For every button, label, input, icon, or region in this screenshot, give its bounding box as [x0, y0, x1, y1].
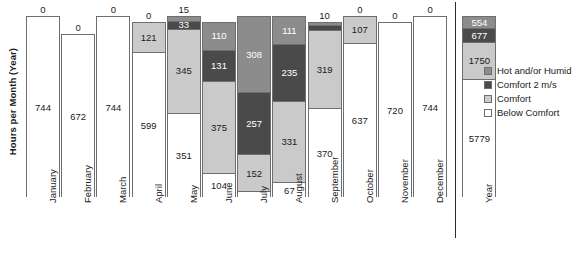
legend-label: Comfort 2 m/s — [497, 79, 557, 90]
bar-top-label: 0 — [26, 4, 60, 15]
x-axis-label-september: September — [329, 123, 340, 203]
segment-value: 33 — [179, 21, 190, 29]
bar-segment-hot: 308 — [238, 17, 270, 92]
bar-top-label: 0 — [96, 4, 130, 15]
x-axis-label-august: August — [293, 123, 304, 203]
bar-top-label: 10 — [308, 10, 342, 21]
segment-value: 744 — [422, 103, 438, 113]
segment-value: 107 — [352, 25, 368, 35]
bar-top-label: 0 — [378, 10, 412, 21]
segment-value: 131 — [211, 61, 227, 71]
segment-value: 677 — [471, 31, 487, 41]
bar-segment-comfort: 345 — [168, 29, 200, 113]
x-axis-label-october: October — [364, 123, 375, 203]
segment-value: 110 — [211, 31, 226, 41]
bar-top-label: 0 — [413, 4, 447, 15]
x-axis-label-january: January — [47, 123, 58, 203]
segment-value: 744 — [105, 103, 121, 113]
bar-segment-hot: 110 — [203, 23, 235, 50]
legend-item-c2ms[interactable]: Comfort 2 m/s — [484, 78, 584, 91]
x-axis-label-june: June — [223, 123, 234, 203]
bar-top-label: 0 — [132, 10, 166, 21]
x-axis-label-july: July — [258, 123, 269, 203]
bar-segment-comfort: 107 — [344, 17, 376, 43]
legend-swatch-hot-icon — [484, 67, 492, 75]
x-axis-label-april: April — [153, 123, 164, 203]
legend-label: Hot and/or Humid — [497, 65, 571, 76]
bar-top-label: 0 — [343, 4, 377, 15]
segment-value: 672 — [70, 112, 86, 122]
legend-item-comfort[interactable]: Comfort — [484, 92, 584, 105]
legend-swatch-comfort-icon — [484, 95, 492, 103]
legend-label: Comfort — [497, 93, 531, 104]
bar-segment-c2ms: 677 — [463, 28, 495, 42]
legend-swatch-below-icon — [484, 109, 492, 117]
bar-segment-c2ms: 33 — [168, 21, 200, 29]
legend-item-hot[interactable]: Hot and/or Humid — [484, 64, 584, 77]
x-axis-label-december: December — [434, 123, 445, 203]
legend-label: Below Comfort — [497, 107, 559, 118]
segment-value: 308 — [246, 50, 262, 60]
legend-item-below[interactable]: Below Comfort — [484, 106, 584, 119]
bar-segment-hot: 554 — [463, 17, 495, 28]
segment-value: 111 — [282, 26, 296, 36]
year-separator — [455, 2, 456, 238]
segment-value: 720 — [387, 106, 403, 116]
segment-value: 744 — [35, 103, 51, 113]
x-axis-label-november: November — [399, 123, 410, 203]
segment-value: 319 — [317, 65, 333, 75]
x-axis-label-february: February — [82, 123, 93, 203]
chart-legend: Hot and/or HumidComfort 2 m/sComfortBelo… — [484, 64, 584, 120]
bar-segment-comfort: 121 — [133, 23, 165, 52]
y-axis-title: Hours per Month (Year) — [7, 27, 18, 177]
bar-segment-c2ms: 131 — [203, 50, 235, 82]
bar-top-label: 0 — [61, 22, 95, 33]
x-axis-label-may: May — [188, 123, 199, 203]
segment-value: 235 — [281, 68, 297, 78]
bar-segment-c2ms: 235 — [273, 44, 305, 101]
comfort-hours-chart: Hours per Month (Year) 07440672074401215… — [0, 0, 585, 262]
segment-value: 554 — [471, 18, 487, 28]
x-axis-label-year: Year — [483, 123, 494, 203]
bar-top-label: 15 — [167, 4, 201, 15]
bar-segment-comfort: 319 — [309, 30, 341, 108]
legend-swatch-c2ms-icon — [484, 81, 492, 89]
x-axis-label-march: March — [117, 123, 128, 203]
segment-value: 121 — [141, 33, 157, 43]
segment-value: 345 — [176, 66, 192, 76]
bar-segment-hot: 111 — [273, 17, 305, 44]
